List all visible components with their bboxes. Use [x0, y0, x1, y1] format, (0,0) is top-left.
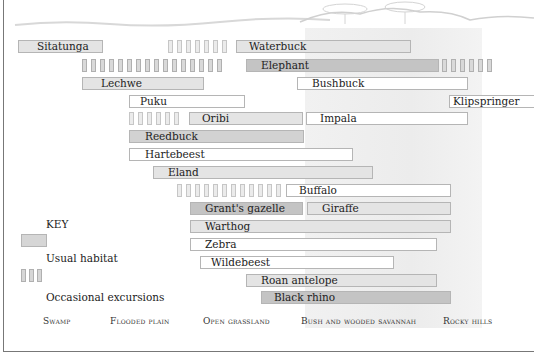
excursion-oribi: [129, 112, 179, 125]
bar-sitatunga: Sitatunga: [18, 40, 103, 53]
bar-hartebeest: Hartebeest: [129, 148, 353, 161]
bar-waterbuck: Waterbuck: [236, 40, 411, 53]
bar-zebra: Zebra: [190, 238, 437, 251]
key-usual-swatch: [21, 234, 47, 247]
excursion-elephant-right: [442, 59, 492, 72]
bar-reedbuck: Reedbuck: [129, 130, 304, 143]
bar-oribi: Oribi: [189, 112, 303, 125]
habitat-flooded-plain: Flooded plain: [110, 316, 170, 326]
key-excursion-label: Occasional excursions: [46, 291, 164, 303]
habitat-swamp: Swamp: [43, 316, 71, 326]
excursion-elephant-left: [82, 59, 222, 72]
bar-elephant: Elephant: [246, 59, 439, 72]
bar-grants-gazelle: Grant's gazelle: [190, 202, 303, 215]
bar-black-rhino: Black rhino: [261, 291, 451, 304]
bar-lechwe: Lechwe: [82, 77, 204, 90]
excursion-waterbuck: [168, 40, 227, 53]
bar-bushbuck: Bushbuck: [297, 77, 468, 90]
habitat-open-grassland: Open grassland: [203, 316, 270, 326]
bar-klipspringer: Klipspringer: [449, 95, 534, 108]
bar-warthog: Warthog: [190, 220, 451, 233]
key-usual-label: Usual habitat: [46, 252, 118, 264]
habitat-bush-savannah: Bush and wooded savannah: [301, 316, 416, 326]
bar-eland: Eland: [153, 166, 373, 179]
bar-buffalo: Buffalo: [286, 184, 451, 197]
bar-giraffe: Giraffe: [307, 202, 451, 215]
key-excursion-swatch: [21, 269, 42, 282]
bar-wildebeest: Wildebeest: [200, 256, 394, 269]
habitat-rocky-hills: Rocky hills: [443, 316, 492, 326]
key-title: KEY: [46, 218, 68, 230]
bar-roan-antelope: Roan antelope: [246, 274, 437, 287]
bar-impala: Impala: [306, 112, 468, 125]
bar-puku: Puku: [129, 95, 245, 108]
excursion-buffalo: [177, 184, 281, 197]
